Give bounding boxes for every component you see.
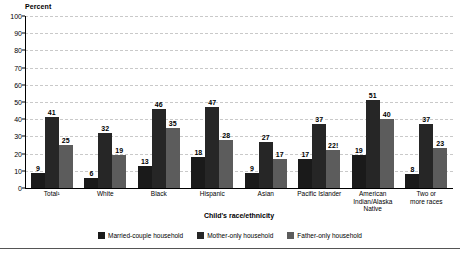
legend-swatch bbox=[98, 232, 105, 239]
y-axis-tick-label: 30 bbox=[14, 133, 22, 140]
bar-group-bars: 195140 bbox=[352, 16, 394, 188]
bar-group-bars: 134635 bbox=[138, 16, 180, 188]
bar-group-bars: 94125 bbox=[31, 16, 73, 188]
bar-group: 92717 bbox=[239, 16, 293, 188]
bar-value-label: 37 bbox=[422, 116, 430, 123]
bar-value-label: 17 bbox=[276, 151, 284, 158]
bar: 37 bbox=[312, 124, 326, 188]
legend-item: Married-couple household bbox=[98, 232, 183, 239]
bar: 19 bbox=[352, 155, 366, 188]
bar-value-label: 35 bbox=[169, 120, 177, 127]
bar: 6 bbox=[84, 178, 98, 188]
bar-slot: 9 bbox=[245, 16, 259, 188]
y-axis-tick-label: 70 bbox=[14, 64, 22, 71]
chart-legend: Married-couple householdMother-only hous… bbox=[0, 232, 460, 239]
bar: 40 bbox=[380, 119, 394, 188]
legend-swatch bbox=[197, 232, 204, 239]
bar-value-label: 40 bbox=[383, 111, 391, 118]
bar-value-label: 18 bbox=[194, 149, 202, 156]
bar-value-label: 27 bbox=[262, 134, 270, 141]
bar: 17 bbox=[298, 159, 312, 188]
bar: 8 bbox=[405, 174, 419, 188]
bar-slot: 13 bbox=[138, 16, 152, 188]
bar-group: 173722! bbox=[293, 16, 347, 188]
y-axis-tick-label: 100 bbox=[10, 13, 22, 20]
bar-slot: 32 bbox=[98, 16, 112, 188]
bar: 23 bbox=[433, 148, 447, 188]
bar: 19 bbox=[112, 155, 126, 188]
bar-value-label: 9 bbox=[36, 165, 40, 172]
bar-group: 94125 bbox=[25, 16, 79, 188]
bar: 18 bbox=[191, 157, 205, 188]
y-axis-tick-label: 20 bbox=[14, 150, 22, 157]
bar: 22! bbox=[326, 150, 340, 188]
bar-slot: 41 bbox=[45, 16, 59, 188]
bar-group: 184728 bbox=[186, 16, 240, 188]
bar-slot: 35 bbox=[166, 16, 180, 188]
legend-item: Father-only household bbox=[287, 232, 362, 239]
bar: 51 bbox=[366, 100, 380, 188]
bar-group-bars: 83723 bbox=[405, 16, 447, 188]
bar-value-label: 46 bbox=[155, 101, 163, 108]
x-axis-tick-label: Asian bbox=[239, 190, 293, 213]
bar-slot: 28 bbox=[219, 16, 233, 188]
bar: 17 bbox=[273, 159, 287, 188]
bar-slot: 6 bbox=[84, 16, 98, 188]
bar-slot: 17 bbox=[273, 16, 287, 188]
bar-group: 134635 bbox=[132, 16, 186, 188]
y-axis-tick-label: 60 bbox=[14, 81, 22, 88]
bar-value-label: 19 bbox=[355, 147, 363, 154]
bar: 35 bbox=[166, 128, 180, 188]
bar-value-label: 8 bbox=[410, 166, 414, 173]
bar-value-label: 23 bbox=[436, 140, 444, 147]
bar-value-label: 25 bbox=[62, 137, 70, 144]
bar-group: 63219 bbox=[79, 16, 133, 188]
y-axis-tick-label: 50 bbox=[14, 99, 22, 106]
bar-slot: 27 bbox=[259, 16, 273, 188]
bar-value-label: 37 bbox=[315, 116, 323, 123]
legend-label: Married-couple household bbox=[108, 232, 183, 239]
x-axis-tick-label: Black bbox=[132, 190, 186, 213]
bar-slot: 18 bbox=[191, 16, 205, 188]
legend-swatch bbox=[287, 232, 294, 239]
legend-item: Mother-only household bbox=[197, 232, 273, 239]
bar-value-label: 13 bbox=[141, 158, 149, 165]
bar-slot: 8 bbox=[405, 16, 419, 188]
bar-slot: 9 bbox=[31, 16, 45, 188]
bar-chart-figure: Percent 0102030405060708090100 941256321… bbox=[0, 0, 460, 253]
bar: 46 bbox=[152, 109, 166, 188]
x-axis-tick-label: Hispanic bbox=[186, 190, 240, 213]
bar: 47 bbox=[205, 107, 219, 188]
bar-slot: 17 bbox=[298, 16, 312, 188]
bar-value-label: 19 bbox=[115, 147, 123, 154]
bar-group-bars: 184728 bbox=[191, 16, 233, 188]
bar-slot: 22! bbox=[326, 16, 340, 188]
legend-label: Mother-only household bbox=[207, 232, 273, 239]
bar: 13 bbox=[138, 166, 152, 188]
x-axis-tick-label: AmericanIndian/AlaskaNative bbox=[346, 190, 400, 213]
bar-value-label: 51 bbox=[369, 92, 377, 99]
x-axis-tick-label: Two ormore races bbox=[400, 190, 454, 213]
y-axis-tick-label: 10 bbox=[14, 167, 22, 174]
bar-value-label: 9 bbox=[250, 165, 254, 172]
gridline bbox=[25, 188, 453, 189]
bar: 9 bbox=[245, 173, 259, 188]
bar-groups: 941256321913463518472892717173722!195140… bbox=[25, 16, 453, 188]
bar-group-bars: 173722! bbox=[298, 16, 340, 188]
bar-slot: 46 bbox=[152, 16, 166, 188]
bar-slot: 19 bbox=[112, 16, 126, 188]
legend-label: Father-only household bbox=[297, 232, 362, 239]
bar-value-label: 47 bbox=[208, 99, 216, 106]
bar-value-label: 41 bbox=[48, 109, 56, 116]
y-axis-tick-label: 0 bbox=[18, 185, 22, 192]
bar-value-label: 17 bbox=[301, 151, 309, 158]
bar-slot: 51 bbox=[366, 16, 380, 188]
bar-value-label: 28 bbox=[222, 132, 230, 139]
bar: 25 bbox=[59, 145, 73, 188]
bar-slot: 47 bbox=[205, 16, 219, 188]
bar: 28 bbox=[219, 140, 233, 188]
x-axis-tick-label: Total¹ bbox=[25, 190, 79, 213]
bar-group: 83723 bbox=[400, 16, 454, 188]
bar: 32 bbox=[98, 133, 112, 188]
plot-area: 0102030405060708090100 94125632191346351… bbox=[25, 16, 453, 188]
